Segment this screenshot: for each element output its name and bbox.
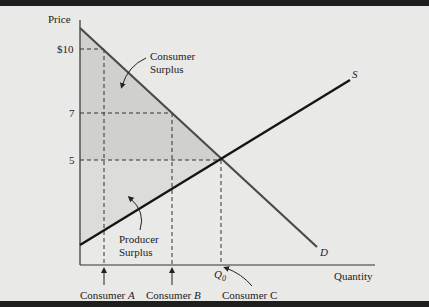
supply-label: S [352,68,358,80]
y-tick-5: 5 [69,154,75,166]
consumer-b-prefix: Consumer [146,289,194,301]
consumer-surplus-label-line2: Surplus [150,63,184,75]
q0-letter: Q [214,268,222,280]
y-tick-10: $10 [57,43,74,55]
consumer-a-label: Consumer A [80,289,135,301]
y-tick-7: 7 [69,107,75,119]
consumer-b-label: Consumer B [146,289,201,301]
producer-surplus-label-line2: Surplus [119,246,153,258]
y-axis-label: Price [48,13,71,25]
consumer-a-letter: A [128,289,135,301]
demand-label: D [320,246,328,258]
q0-subscript: 0 [222,274,226,283]
consumer-b-letter: B [194,289,201,301]
producer-surplus-label-line1: Producer [119,233,159,245]
x-axis-label: Quantity [334,270,373,282]
q0-label: Q0 [214,268,226,285]
consumer-c-label: Consumer C [222,289,277,301]
consumer-surplus-label-line1: Consumer [150,50,195,62]
consumer-a-prefix: Consumer [80,289,128,301]
consumer-c-arrow-icon [226,268,252,286]
